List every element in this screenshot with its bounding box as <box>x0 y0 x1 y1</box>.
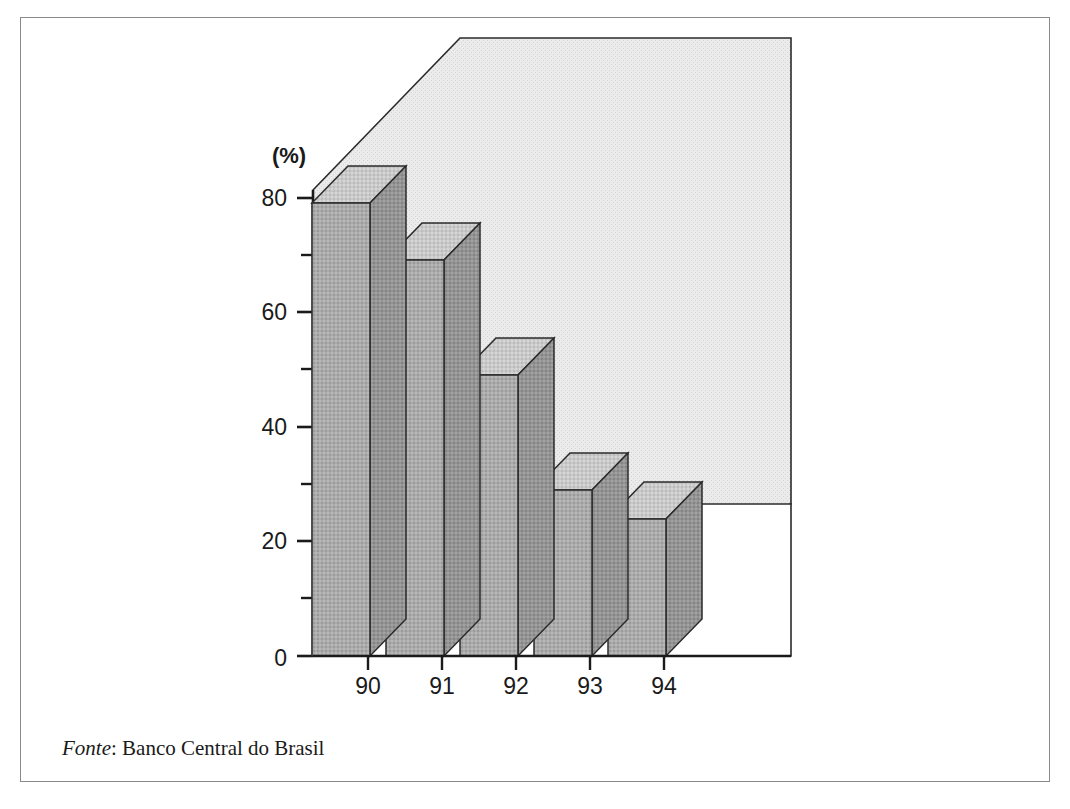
y-tick-label-0: 0 <box>274 645 287 671</box>
bar-90[interactable] <box>312 166 406 656</box>
y-tick-label-20: 20 <box>261 528 287 554</box>
y-tick-label-60: 60 <box>261 299 287 325</box>
y-tick-labels: 80 60 40 20 0 <box>261 185 287 671</box>
source-separator: : <box>111 736 122 760</box>
y-axis <box>297 190 313 656</box>
x-tick-label-92: 92 <box>503 673 529 699</box>
y-tick-label-40: 40 <box>261 414 287 440</box>
x-tick-label-90: 90 <box>355 673 381 699</box>
source-note: Fonte: Banco Central do Brasil <box>62 736 324 761</box>
bar-chart-3d: 80 60 40 20 0 (%) <box>21 18 1051 708</box>
y-axis-unit-label: (%) <box>272 143 306 168</box>
x-tick-labels: 90 91 92 93 94 <box>355 673 677 699</box>
x-tick-label-93: 93 <box>577 673 603 699</box>
y-tick-label-80: 80 <box>261 185 287 211</box>
x-tick-label-91: 91 <box>429 673 455 699</box>
x-axis <box>313 656 791 670</box>
source-label: Fonte <box>62 736 111 760</box>
source-value: Banco Central do Brasil <box>122 736 324 760</box>
x-tick-label-94: 94 <box>651 673 677 699</box>
figure-frame: 80 60 40 20 0 (%) <box>20 17 1050 782</box>
